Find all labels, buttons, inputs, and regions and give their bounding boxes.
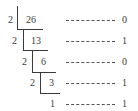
remainder-2: 0 [122, 57, 127, 67]
dividend-2: 6 [41, 57, 46, 67]
dividend-1: 13 [31, 36, 41, 46]
division-bar-horizontal-3 [40, 93, 60, 94]
dividend-0: 26 [26, 15, 36, 25]
division-bar-horizontal-1 [23, 50, 48, 51]
division-bar-vertical-0 [17, 6, 18, 30]
division-bar-horizontal-2 [32, 72, 56, 73]
leader-dash-2 [66, 62, 115, 63]
divisor-0: 2 [8, 15, 13, 25]
divisor-2: 2 [22, 57, 27, 67]
remainder-3: 1 [122, 78, 127, 88]
remainder-1: 1 [122, 36, 127, 46]
leader-dash-3 [66, 83, 115, 84]
remainder-0: 0 [122, 15, 127, 25]
leader-dash-1 [66, 41, 115, 42]
leader-dash-4 [66, 104, 115, 105]
division-bar-vertical-2 [32, 50, 33, 72]
division-bar-horizontal-0 [17, 29, 43, 30]
divisor-1: 2 [12, 36, 17, 46]
dividend-3: 3 [49, 78, 54, 88]
remainder-4: 1 [122, 99, 127, 109]
division-bar-vertical-1 [23, 29, 24, 51]
divisor-3: 2 [30, 78, 35, 88]
leader-dash-0 [66, 20, 115, 21]
division-bar-vertical-3 [40, 72, 41, 94]
final-quotient: 1 [50, 99, 55, 109]
